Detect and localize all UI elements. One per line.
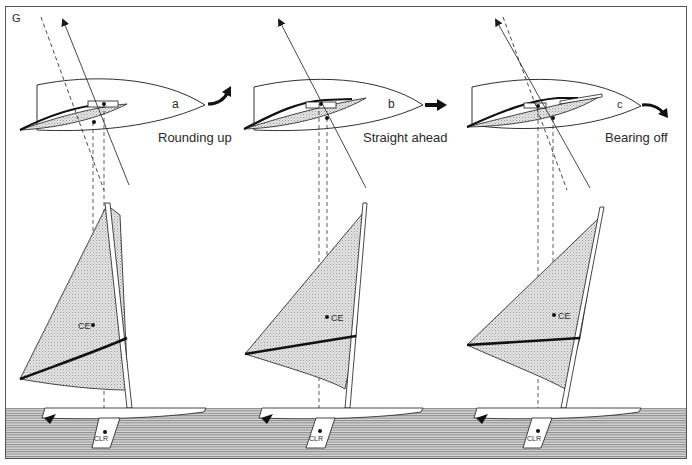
panel-caption: Rounding up <box>158 130 232 145</box>
ce-label: CE <box>331 313 344 323</box>
ce-label: CE <box>558 311 571 321</box>
ce-point <box>552 313 556 317</box>
sail-balance-diagram: G a Rounding up CE CLR <box>0 0 692 465</box>
clr-point <box>103 430 107 434</box>
ce-point <box>325 315 329 319</box>
ce-point <box>91 323 95 327</box>
figure-label: G <box>12 12 21 24</box>
clr-point <box>536 429 540 433</box>
panel-letter: b <box>388 97 395 111</box>
panel-letter: c <box>617 98 623 110</box>
ce-label: CE <box>78 321 91 331</box>
clr-label: CLR <box>309 435 323 442</box>
clr-point <box>318 429 322 433</box>
diagram-canvas: G a Rounding up CE CLR <box>0 0 692 465</box>
clr-label: CLR <box>94 435 108 442</box>
panel-caption: Straight ahead <box>363 130 448 145</box>
clr-label: CLR <box>527 435 541 442</box>
panel-letter: a <box>172 97 179 111</box>
panel-caption: Bearing off <box>605 130 668 145</box>
